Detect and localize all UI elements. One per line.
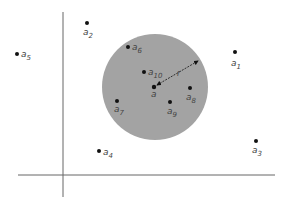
point-dot [254, 139, 258, 143]
disk-neighborhood-diagram: r a1a2a3a4a5a6a7a8a9a10 a [0, 0, 289, 200]
center-point-label: a [151, 89, 157, 99]
point-label: a5 [21, 49, 32, 62]
point-a5: a5 [15, 49, 32, 62]
point-label: a2 [83, 27, 94, 40]
point-a4: a4 [97, 147, 113, 160]
point-dot [168, 100, 172, 104]
point-dot [15, 52, 19, 56]
point-label: a1 [231, 58, 241, 71]
point-dot [126, 45, 130, 49]
point-a2: a2 [83, 21, 94, 40]
point-dot [188, 86, 192, 90]
point-dot [233, 50, 237, 54]
point-label: a3 [252, 145, 262, 158]
point-dot [115, 99, 119, 103]
point-a1: a1 [231, 50, 241, 71]
point-label: a4 [103, 147, 113, 160]
point-dot [97, 149, 101, 153]
center-point-group: a [151, 85, 157, 99]
point-a3: a3 [252, 139, 262, 158]
point-dot [85, 21, 89, 25]
point-dot [142, 70, 146, 74]
